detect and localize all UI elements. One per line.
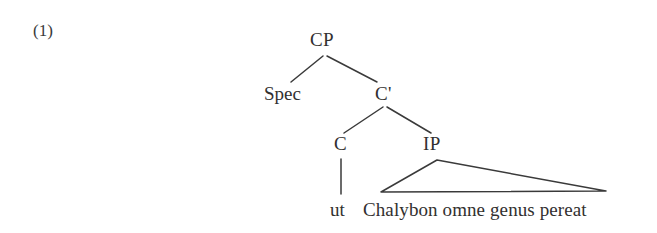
tree-node-cp: CP bbox=[310, 30, 334, 49]
branch-cbar-to-c bbox=[344, 107, 383, 133]
tree-node-ip: IP bbox=[423, 134, 441, 153]
example-figure: (1) CP Spec C' C IP ut Chalybon omne gen… bbox=[0, 0, 657, 233]
branch-cp-to-cbar bbox=[327, 56, 377, 82]
tree-terminal-phrase: Chalybon omne genus pereat bbox=[363, 200, 587, 219]
tree-node-spec: Spec bbox=[264, 84, 301, 103]
tree-terminal-ut: ut bbox=[330, 200, 345, 219]
ip-triangle bbox=[381, 160, 606, 192]
tree-node-c: C bbox=[334, 134, 347, 153]
branch-cbar-to-ip bbox=[387, 107, 431, 133]
branch-cp-to-spec bbox=[291, 56, 323, 82]
tree-node-c-bar: C' bbox=[375, 84, 392, 103]
